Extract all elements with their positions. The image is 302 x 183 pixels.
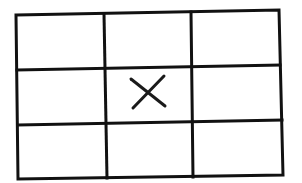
grid-horizontal-line-2 <box>18 120 282 125</box>
x-mark-icon <box>131 76 165 108</box>
grid-svg <box>0 0 302 183</box>
grid-vertical-line-2 <box>191 12 193 177</box>
grid-vertical-line-1 <box>104 14 107 178</box>
grid-horizontal-line-1 <box>17 65 280 70</box>
grid-diagram: X <box>0 0 302 183</box>
